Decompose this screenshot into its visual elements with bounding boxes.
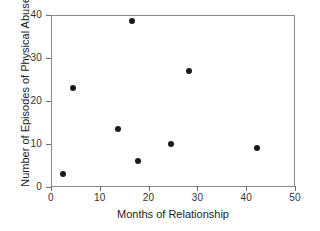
x-axis-tick-label: 50 <box>280 192 310 203</box>
x-axis-tick <box>51 186 52 191</box>
x-axis-tick <box>100 186 101 191</box>
data-point <box>129 18 135 24</box>
x-axis-label: Months of Relationship <box>51 208 295 220</box>
data-point <box>168 141 174 147</box>
x-axis-tick-label: 10 <box>85 192 115 203</box>
x-axis-tick-label: 0 <box>36 192 66 203</box>
x-axis-tick <box>246 186 247 191</box>
x-axis-tick <box>149 186 150 191</box>
x-axis-tick <box>197 186 198 191</box>
y-axis-label: Number of Episodes of Physical Abuse <box>19 0 31 192</box>
x-axis-tick-label: 30 <box>182 192 212 203</box>
x-axis-tick-label: 40 <box>231 192 261 203</box>
x-axis-tick <box>295 186 296 191</box>
y-axis-tick <box>46 15 51 16</box>
scatter-plot-figure: 01020304050010203040 Months of Relations… <box>0 0 320 231</box>
data-point <box>70 85 76 91</box>
plot-area <box>51 15 295 187</box>
y-axis-tick <box>46 58 51 59</box>
y-axis-tick <box>46 187 51 188</box>
y-axis-tick <box>46 144 51 145</box>
x-axis-tick-label: 20 <box>134 192 164 203</box>
y-axis-tick <box>46 101 51 102</box>
data-point <box>186 68 192 74</box>
